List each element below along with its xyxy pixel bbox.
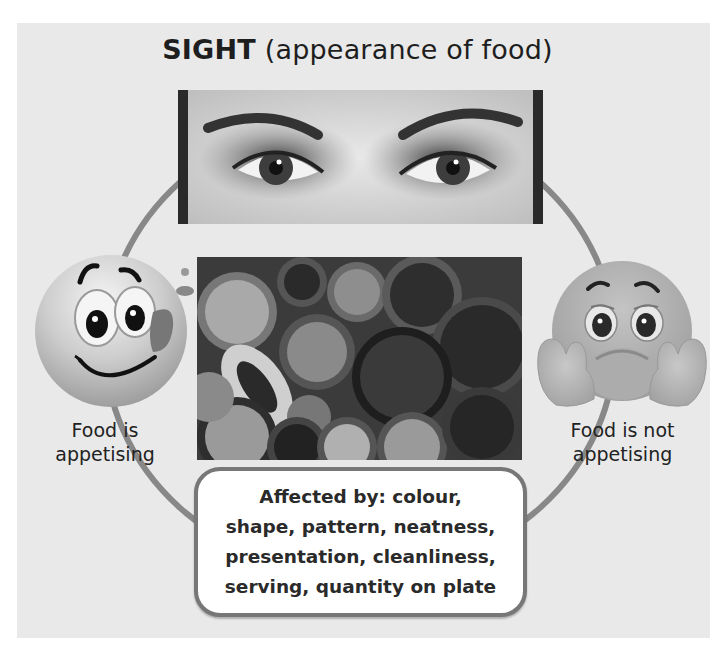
factors-line: Affected by: colour,	[259, 482, 461, 512]
factors-line: serving, quantity on plate	[225, 572, 496, 602]
food-photo	[197, 257, 522, 460]
factors-line: presentation, cleanliness,	[225, 542, 495, 572]
eyes-photo	[178, 90, 543, 224]
appetising-label: Food is appetising	[30, 418, 180, 466]
title-strong: SIGHT	[162, 34, 256, 65]
label-line: appetising	[30, 442, 180, 466]
factors-box: Affected by: colour, shape, pattern, nea…	[194, 467, 527, 617]
not-appetising-label: Food is not appetising	[550, 418, 695, 466]
label-line: Food is	[30, 418, 180, 442]
happy-emoji-icon	[35, 252, 195, 410]
title-rest: (appearance of food)	[256, 34, 553, 65]
label-line: appetising	[550, 442, 695, 466]
factors-line: shape, pattern, neatness,	[226, 512, 495, 542]
sad-emoji-icon	[536, 259, 708, 409]
page-title: SIGHT (appearance of food)	[0, 34, 715, 65]
label-line: Food is not	[550, 418, 695, 442]
